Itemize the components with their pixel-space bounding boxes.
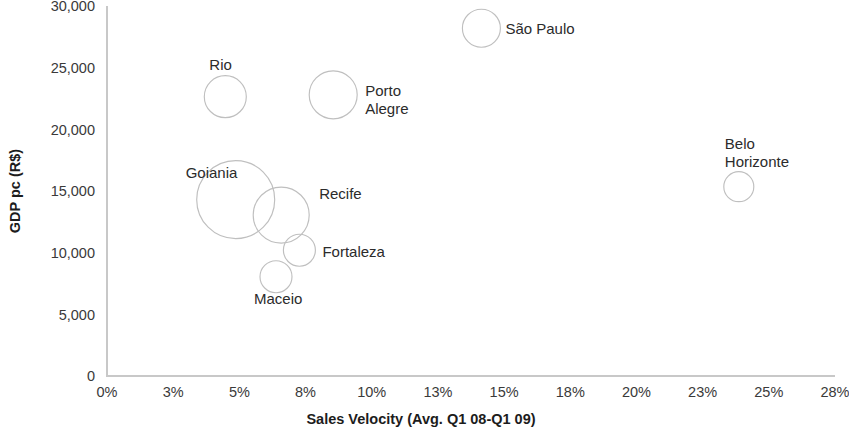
bubble-rio[interactable] — [204, 76, 246, 118]
y-tick-label: 0 — [87, 368, 95, 384]
y-axis-tick-labels: 05,00010,00015,00020,00025,00030,000 — [51, 0, 95, 384]
bubble-label-recife: Recife — [319, 185, 362, 202]
bubble-maceio[interactable] — [260, 261, 292, 293]
bubble-label-goiania: Goiania — [186, 164, 238, 181]
bubble-labels: São PauloRioPortoAlegreBeloHorizonteGoia… — [186, 20, 789, 307]
x-tick-label: 13% — [423, 384, 452, 400]
x-tick-label: 25% — [754, 384, 783, 400]
x-tick-label: 18% — [556, 384, 585, 400]
bubble-label-fortaleza: Fortaleza — [322, 243, 385, 260]
x-axis-title: Sales Velocity (Avg. Q1 08-Q1 09) — [306, 411, 535, 427]
x-tick-label: 15% — [490, 384, 519, 400]
bubble-porto-alegre[interactable] — [309, 71, 357, 119]
bubble-series — [197, 9, 754, 293]
bubble-fortaleza[interactable] — [283, 234, 315, 266]
bubble-label-porto-alegre: PortoAlegre — [365, 82, 408, 117]
y-tick-label: 25,000 — [51, 60, 95, 76]
y-tick-label: 10,000 — [51, 245, 95, 261]
x-tick-label: 10% — [357, 384, 386, 400]
bubble-label-são-paulo: São Paulo — [505, 20, 574, 37]
bubble-label-rio: Rio — [209, 56, 232, 73]
x-tick-label: 20% — [622, 384, 651, 400]
x-axis-tick-labels: 0%3%5%8%10%13%15%18%20%23%25%28% — [97, 384, 849, 400]
bubble-belo-horizonte[interactable] — [724, 172, 754, 202]
x-tick-label: 0% — [97, 384, 118, 400]
x-tick-label: 23% — [688, 384, 717, 400]
chart-canvas: 05,00010,00015,00020,00025,00030,000 0%3… — [0, 0, 849, 446]
y-tick-label: 30,000 — [51, 0, 95, 14]
bubble-label-maceio: Maceio — [254, 290, 302, 307]
y-tick-label: 15,000 — [51, 183, 95, 199]
y-axis-title: GDP pc (R$) — [7, 149, 23, 234]
bubble-chart: 05,00010,00015,00020,00025,00030,000 0%3… — [0, 0, 849, 446]
bubble-são-paulo[interactable] — [462, 9, 500, 47]
x-tick-label: 5% — [229, 384, 250, 400]
bubble-label-belo-horizonte: BeloHorizonte — [725, 135, 789, 170]
x-tick-label: 28% — [820, 384, 849, 400]
y-tick-label: 5,000 — [59, 307, 95, 323]
x-tick-label: 3% — [163, 384, 184, 400]
x-tick-label: 8% — [295, 384, 316, 400]
y-tick-label: 20,000 — [51, 122, 95, 138]
